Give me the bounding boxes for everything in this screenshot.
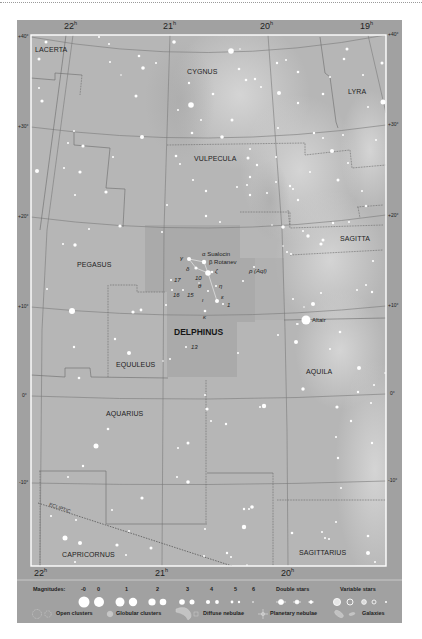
star [188, 82, 190, 84]
star [115, 543, 118, 546]
star [297, 199, 299, 201]
legend-mag-minus0: -0 [81, 587, 86, 593]
star [169, 358, 171, 360]
star [335, 436, 337, 438]
star [98, 36, 100, 38]
dec-label-right-zero: 0° [390, 391, 395, 396]
star [339, 331, 342, 334]
star-label-13: 13 [191, 344, 198, 350]
ra-unit: h [74, 20, 77, 26]
star [212, 93, 215, 96]
star [292, 298, 294, 300]
star-label-17: 17 [174, 277, 181, 283]
star [202, 260, 206, 264]
star [112, 156, 114, 158]
star [319, 242, 322, 245]
star [67, 142, 69, 144]
star [361, 190, 363, 192]
star [186, 480, 190, 484]
star [330, 149, 334, 153]
star [296, 323, 298, 325]
star [294, 340, 298, 344]
star [301, 387, 304, 390]
constellation-aquarius: AQUARIUS [106, 410, 143, 417]
star [38, 58, 41, 61]
star [247, 157, 250, 160]
star [290, 253, 292, 255]
star [367, 535, 370, 538]
star [226, 552, 228, 554]
star [329, 76, 331, 78]
star [50, 515, 52, 517]
star [204, 528, 206, 530]
star [127, 351, 131, 355]
star [81, 144, 84, 147]
star [230, 556, 232, 558]
star [256, 164, 258, 166]
star [188, 102, 194, 108]
star [179, 163, 181, 165]
star-label-delta: δ [186, 266, 189, 272]
star [73, 346, 75, 348]
star [249, 194, 251, 196]
star [162, 360, 164, 362]
star [205, 407, 208, 410]
star [262, 404, 266, 408]
legend-variable-stars-label: Variable stars [340, 587, 376, 593]
star [371, 442, 373, 444]
star [205, 190, 207, 192]
star [211, 271, 214, 274]
star [357, 391, 359, 393]
star [248, 508, 250, 510]
star [205, 215, 207, 217]
dec-label-left-plus40: +40° [18, 34, 28, 39]
star-label-beta-rotanev: β Rotanev [209, 259, 236, 265]
star [219, 221, 221, 223]
star [322, 93, 325, 96]
ra-value: 22 [34, 568, 44, 578]
ra-unit: h [291, 567, 294, 573]
star-label-eta: η [219, 283, 222, 289]
dec-label-left-plus30: +30° [18, 124, 28, 129]
constellation-vulpecula: VULPECULA [194, 155, 237, 162]
star [207, 290, 209, 292]
star [243, 508, 245, 510]
star [372, 260, 374, 262]
star [350, 420, 352, 422]
dec-label-left-minus10: -10° [19, 480, 28, 485]
legend-galaxies-label: Galaxies [362, 611, 385, 617]
star [328, 538, 330, 540]
star [275, 156, 277, 158]
ra-unit: h [270, 20, 273, 26]
ra-value: 20 [281, 568, 291, 578]
star [313, 132, 315, 134]
star [177, 109, 179, 111]
star [138, 55, 141, 58]
star [165, 304, 167, 306]
star [109, 61, 111, 63]
star-label-kappa: κ [203, 314, 206, 320]
star [242, 280, 244, 282]
star [348, 221, 350, 223]
star [192, 179, 194, 181]
legend-open-clusters-label: Open clusters [56, 611, 93, 617]
star [236, 186, 238, 188]
star-label-epsilon: ε [221, 294, 224, 300]
star [297, 71, 300, 74]
star [365, 205, 367, 207]
star [335, 521, 337, 523]
star [375, 139, 377, 141]
ra-label-bottom-21h: 21h [155, 569, 168, 578]
star [366, 551, 370, 555]
star-label-alpha-sualocin: α Sualocin [202, 251, 230, 257]
star [321, 531, 323, 533]
star [69, 308, 75, 314]
star [340, 487, 342, 489]
star [356, 289, 358, 291]
star [309, 171, 311, 173]
legend-globular-clusters-label: Globular clusters [116, 611, 161, 617]
star [245, 79, 248, 82]
star [254, 78, 256, 80]
star-label-16: 16 [173, 292, 180, 298]
star [289, 185, 291, 187]
